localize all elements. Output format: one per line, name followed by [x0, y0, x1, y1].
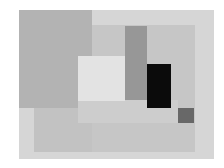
black-rectangle [147, 64, 171, 108]
small-dark-square [178, 108, 194, 123]
light-rectangle [78, 56, 125, 101]
gray-vertical-bar [125, 26, 147, 100]
